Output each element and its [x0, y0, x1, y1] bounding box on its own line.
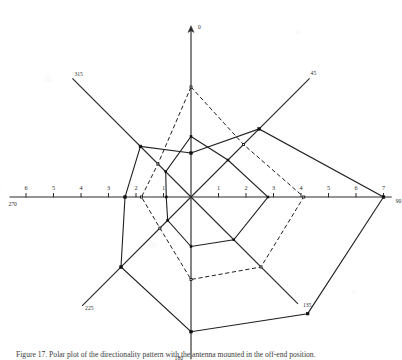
axis-labels-group: 04590135180225270315: [9, 24, 402, 360]
angle-label-270: 270: [9, 201, 18, 207]
data-marker-solid-curve-90: [382, 196, 385, 199]
data-marker-solid-curve-180: [190, 330, 193, 333]
axis-tick-label-left-1: 1: [162, 184, 165, 191]
radial-axes-group: [10, 26, 392, 360]
angle-label-0: 0: [198, 24, 201, 30]
data-marker-solid-curve-225: [120, 266, 123, 269]
data-marker-inner-solid-curve-135: [233, 239, 235, 241]
data-marker-inner-solid-curve-45: [227, 159, 229, 161]
angle-label-225: 225: [85, 305, 94, 311]
axis-tick-label-right-4: 4: [299, 184, 302, 191]
data-marker-dashed-curve-270: [141, 196, 143, 198]
axis-tick-label-right-3: 3: [272, 184, 275, 191]
angle-label-90: 90: [396, 198, 402, 204]
axis-tick-label-right-6: 6: [354, 184, 357, 191]
data-marker-dashed-curve-90: [303, 196, 305, 198]
data-marker-dashed-curve-135: [260, 266, 262, 268]
axis-tick-label-right-7: 7: [382, 184, 385, 191]
data-marker-solid-curve-270: [124, 196, 127, 199]
data-markers-group: [120, 86, 385, 333]
data-series-group: [121, 87, 384, 332]
data-marker-solid-curve-0: [190, 152, 193, 155]
data-marker-dashed-curve-315: [157, 163, 159, 165]
data-marker-inner-solid-curve-270: [165, 196, 167, 198]
figure-caption: Figure 17. Polar plot of the directional…: [16, 350, 396, 360]
axis-tick-label-right-2: 2: [244, 184, 247, 191]
radial-axis-45: [191, 78, 310, 197]
data-marker-dashed-curve-225: [159, 227, 161, 229]
radial-axis-135: [191, 197, 298, 304]
angle-label-45: 45: [311, 70, 317, 76]
axis-tick-label-left-3: 3: [107, 184, 110, 191]
polar-chart-svg: 76543211234567 04590135180225270315: [0, 0, 402, 360]
data-marker-solid-curve-135: [306, 312, 309, 315]
axis-tick-label-right-5: 5: [327, 184, 330, 191]
angle-label-135: 135: [303, 302, 312, 308]
radial-axis-225: [82, 197, 191, 306]
data-marker-dashed-curve-45: [243, 144, 245, 146]
data-marker-inner-solid-curve-180: [190, 246, 192, 248]
polar-chart-figure: 76543211234567 04590135180225270315: [0, 0, 402, 360]
angle-label-315: 315: [74, 71, 83, 77]
data-marker-inner-solid-curve-0: [190, 136, 192, 138]
axis-tick-label-left-6: 6: [24, 184, 27, 191]
axis-tick-label-left-5: 5: [52, 184, 55, 191]
axis-tick-label-left-4: 4: [79, 184, 82, 191]
data-marker-solid-curve-45: [258, 128, 261, 131]
data-marker-solid-curve-315: [139, 145, 142, 148]
data-marker-inner-solid-curve-90: [267, 196, 269, 198]
data-marker-dashed-curve-0: [190, 86, 192, 88]
axis-tick-label-left-2: 2: [134, 184, 137, 191]
axis-tick-label-right-1: 1: [217, 184, 220, 191]
data-marker-dashed-curve-180: [190, 279, 192, 281]
data-marker-inner-solid-curve-315: [165, 171, 167, 173]
radial-axis-315: [72, 78, 191, 197]
data-marker-inner-solid-curve-225: [167, 219, 169, 221]
